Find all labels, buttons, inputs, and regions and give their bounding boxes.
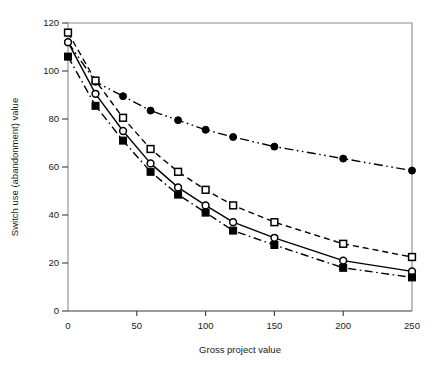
data-point-marker-open-circle xyxy=(120,128,127,135)
x-axis-tick-label: 100 xyxy=(198,320,214,331)
axis-ticks xyxy=(62,23,343,316)
x-axis-title: Gross project value xyxy=(199,344,281,355)
data-point-marker-open-circle xyxy=(202,202,209,209)
y-axis-tick-label: 20 xyxy=(48,257,59,268)
data-point-marker-filled-square xyxy=(65,53,72,60)
series-filled-square xyxy=(65,53,416,281)
data-point-marker-open-square xyxy=(202,186,209,193)
y-axis-tick-label: 60 xyxy=(48,161,59,172)
data-point-marker-open-circle xyxy=(147,160,154,167)
data-point-marker-open-square xyxy=(271,219,278,226)
data-point-marker-open-circle xyxy=(175,184,182,191)
data-point-marker-filled-circle xyxy=(271,143,278,150)
series-line xyxy=(68,42,412,271)
y-axis-tick-label: 100 xyxy=(43,65,59,76)
axes xyxy=(68,23,412,311)
data-point-marker-filled-circle xyxy=(230,134,237,141)
chart-container: 020406080100120050100150200250 Gross pro… xyxy=(0,0,436,365)
series-line xyxy=(68,33,412,257)
x-axis-tick-label: 50 xyxy=(132,320,143,331)
x-axis-tick-label: 250 xyxy=(404,320,420,331)
data-point-marker-filled-circle xyxy=(340,155,347,162)
data-point-marker-filled-square xyxy=(120,137,127,144)
data-series-layer xyxy=(65,29,416,281)
x-axis-tick-label: 150 xyxy=(266,320,282,331)
data-point-marker-filled-circle xyxy=(120,93,127,100)
data-point-marker-filled-square xyxy=(202,209,209,216)
y-axis-tick-label: 40 xyxy=(48,209,59,220)
line-chart: 020406080100120050100150200250 Gross pro… xyxy=(0,0,436,365)
series-filled-circle xyxy=(65,39,416,174)
data-point-marker-filled-square xyxy=(92,102,99,109)
data-point-marker-filled-square xyxy=(230,227,237,234)
data-point-marker-open-square xyxy=(65,29,72,36)
y-axis-tick-label: 120 xyxy=(43,17,59,28)
data-point-marker-open-circle xyxy=(92,90,99,97)
data-point-marker-filled-square xyxy=(409,274,416,281)
data-point-marker-open-circle xyxy=(230,219,237,226)
series-line xyxy=(68,57,412,278)
data-point-marker-open-square xyxy=(409,254,416,261)
data-point-marker-open-square xyxy=(340,240,347,247)
data-point-marker-open-circle xyxy=(340,257,347,264)
data-point-marker-open-circle xyxy=(65,39,72,46)
data-point-marker-open-square xyxy=(147,146,154,153)
plot-frame xyxy=(68,23,412,311)
data-point-marker-filled-circle xyxy=(147,107,154,114)
data-point-marker-filled-circle xyxy=(409,167,416,174)
data-point-marker-filled-square xyxy=(271,242,278,249)
data-point-marker-open-square xyxy=(92,77,99,84)
data-point-marker-open-circle xyxy=(271,234,278,241)
series-open-square xyxy=(65,29,416,260)
axis-titles: Gross project valueSwitch use (abandonme… xyxy=(9,98,281,355)
data-point-marker-open-square xyxy=(230,202,237,209)
data-point-marker-filled-circle xyxy=(202,126,209,133)
data-point-marker-filled-circle xyxy=(175,117,182,124)
y-axis-tick-label: 0 xyxy=(54,305,59,316)
x-axis-tick-label: 0 xyxy=(65,320,70,331)
series-line xyxy=(68,42,412,170)
data-point-marker-filled-square xyxy=(147,168,154,175)
x-axis-tick-label: 200 xyxy=(335,320,351,331)
data-point-marker-open-square xyxy=(175,168,182,175)
data-point-marker-open-square xyxy=(120,114,127,121)
y-axis-tick-label: 80 xyxy=(48,113,59,124)
axis-tick-labels: 020406080100120050100150200250 xyxy=(43,17,420,331)
series-open-circle xyxy=(65,39,416,275)
data-point-marker-filled-square xyxy=(340,264,347,271)
data-point-marker-filled-square xyxy=(175,191,182,198)
y-axis-title: Switch use (abandonment) value xyxy=(9,98,20,236)
